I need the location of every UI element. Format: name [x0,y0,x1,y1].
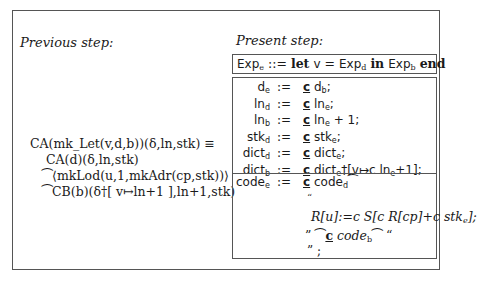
formula-line: ⁀⟨mkLod(u,1,mkAdr(cp,stk))⟩ [30,168,235,184]
def-rhs: d [314,80,322,94]
code-lhs: codee [236,175,270,190]
subscript: d [265,103,270,112]
def-op: := [277,129,291,146]
subscript: e [265,181,270,190]
formula-line: ⁀CB(b)(δ†[ v↦ln+1 ],ln+1,stk) [30,184,235,200]
definition-row: lnb := c lne + 1; [233,112,436,129]
copy-op: c [325,228,333,243]
close-quote: ” [305,228,311,243]
def-rhs: ln [314,97,325,111]
def-lhs: ln [254,97,265,111]
concat-op: ⁀ [348,175,358,189]
copy-op: c [303,80,310,94]
subscript: e [265,86,270,95]
attribute-definitions: de := c db; lnd := c lne; lnb := c lne +… [232,77,437,259]
code-lhs-name: code [236,175,265,189]
copy-op: c [303,175,310,189]
definition-row: stkd := c stke; [233,129,436,146]
definition-row: de := c db; [233,79,436,96]
previous-step-label: Previous step: [20,35,113,50]
def-tail: ; [341,146,345,160]
code-assignment: R[u]:=c S[c R[cp]+c stke]; [311,209,477,225]
copy-op: c [303,113,310,127]
subscript: d [265,136,270,145]
subscript: b [411,63,416,72]
def-lhs: stk [247,130,265,144]
def-tail: ; [337,130,341,144]
subscript: d [265,152,270,161]
open-quote: “ [307,192,312,203]
open-quote: “ [386,228,392,243]
keyword-end: end [420,56,446,71]
def-rhs: stk [314,130,332,144]
def-op: := [277,96,291,113]
formula-line: CA(d)(δ,ln,stk) [30,152,235,168]
code-rhs-name: code [314,175,343,189]
rule-eq: = [324,56,334,71]
rule-op: ::= [268,56,287,71]
code-op: := [277,175,291,189]
code-b: code [337,228,367,243]
rule-var: v [313,57,320,71]
def-op: := [277,79,291,96]
subscript: d [361,63,366,72]
grammar-rule-header: Expe ::= let v = Expd in Expb end [232,54,437,74]
def-lhs: dict [243,146,265,160]
def-rhs: dict [314,146,336,160]
assignment-end: ]; [468,209,477,224]
final-quote: ” ; [307,244,321,258]
assignment-text: R[u]:=c S[c R[cp]+c stk [311,209,463,224]
def-op: := [277,145,291,162]
rule-lhs: Exp [237,57,259,71]
rule-b: Exp [388,57,410,71]
subscript: b [265,119,270,128]
subscript: e [259,63,264,72]
def-tail: ; [327,80,331,94]
code-rhs: c coded⁀ [303,175,358,190]
def-tail: +1]; [395,163,421,177]
def-tail: + 1; [330,113,359,127]
copy-op: c [303,97,310,111]
copy-op: c [303,146,310,160]
copy-op: c [303,130,310,144]
definition-row: dictd := c dicte; [233,145,436,162]
code-concat-line: ” ⁀c codeb⁀ “ [305,228,392,244]
keyword-let: let [291,56,309,71]
def-tail: ; [330,97,334,111]
keyword-in: in [370,56,384,71]
concat-op: ⁀ [372,228,382,243]
def-lhs: d [257,80,265,94]
formula-line: CA(mk_Let(v,d,b))(δ,ln,stk) ≡ [30,136,235,152]
previous-step-formula: CA(mk_Let(v,d,b))(δ,ln,stk) ≡ CA(d)(δ,ln… [30,136,235,200]
section-divider [233,173,436,174]
definition-row: lnd := c lne; [233,96,436,113]
concat-op: ⁀ [315,228,325,243]
def-lhs: ln [254,113,265,127]
def-rhs: ln [314,113,325,127]
rule-d: Exp [339,57,361,71]
def-op: := [277,112,291,129]
present-step-label: Present step: [236,33,323,48]
